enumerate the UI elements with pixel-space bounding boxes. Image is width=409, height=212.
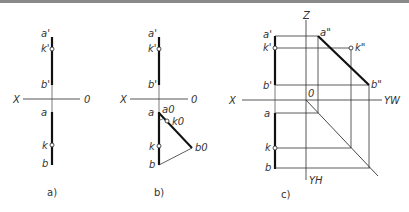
label-a-prime: a': [263, 29, 272, 40]
label-a: a: [148, 107, 154, 118]
caption-c: c): [281, 189, 290, 200]
label-b-prime: b': [263, 80, 272, 91]
label-b0: b0: [195, 142, 208, 153]
label-a: a: [264, 108, 270, 119]
panel-c: X 0 Z YW YH a' k' b' a k b a" k" b" c): [228, 10, 401, 200]
label-b: b: [42, 158, 48, 169]
label-b: b: [149, 159, 155, 170]
x-axis-label: X: [119, 94, 128, 105]
label-k-prime: k': [148, 43, 157, 54]
label-k: k: [149, 141, 156, 152]
label-k-prime: k': [263, 42, 272, 53]
x-axis-label: X: [228, 95, 237, 106]
panel-b: X 0 a' k' b' a a0 k0 b0 k b b): [119, 28, 208, 198]
projection-diagram: X 0 a' k' b' a k b a) X 0 a' k' b' a a0 …: [0, 0, 409, 212]
label-b-dprime: b": [371, 79, 382, 90]
origin-label: 0: [308, 88, 314, 99]
label-a0: a0: [162, 104, 175, 115]
label-k: k: [265, 142, 272, 153]
label-b-prime: b': [41, 79, 50, 90]
label-a-prime: a': [41, 28, 50, 39]
x-axis-label: X: [12, 94, 21, 105]
label-b: b: [265, 162, 271, 173]
yw-axis-label: YW: [384, 95, 401, 106]
caption-a: a): [47, 187, 57, 198]
origin-label: 0: [84, 94, 90, 105]
panel-a: X 0 a' k' b' a k b a): [12, 28, 90, 198]
yh-axis-label: YH: [309, 175, 323, 186]
label-a-dprime: a": [320, 27, 331, 38]
label-k-dprime: k": [355, 42, 365, 53]
label-a-prime: a': [148, 28, 157, 39]
label-k-prime: k': [41, 43, 50, 54]
caption-b: b): [154, 187, 164, 198]
label-k0: k0: [172, 116, 184, 127]
origin-label: 0: [191, 94, 197, 105]
z-axis-label: Z: [302, 10, 311, 21]
label-b-prime: b': [148, 79, 157, 90]
label-a: a: [41, 107, 47, 118]
label-k: k: [42, 140, 49, 151]
